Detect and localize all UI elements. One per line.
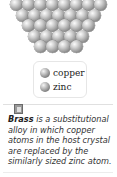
legend-item-copper: copper xyxy=(40,67,85,79)
legend-label-zinc: zinc xyxy=(53,81,71,93)
figure-marker-icon xyxy=(14,104,23,114)
copper-atom-sphere-icon xyxy=(40,68,50,78)
legend-item-zinc: zinc xyxy=(40,81,71,93)
figure-caption: Brass is a substitutional alloy in which… xyxy=(8,114,114,167)
legend-label-copper: copper xyxy=(53,67,85,79)
crystal-lattice xyxy=(0,0,117,56)
divider xyxy=(3,172,113,173)
caption-term: Brass xyxy=(8,114,34,124)
atom-sphere-icon xyxy=(70,40,83,53)
legend-box: copper zinc xyxy=(33,61,87,98)
zinc-atom-sphere-icon xyxy=(40,82,50,92)
